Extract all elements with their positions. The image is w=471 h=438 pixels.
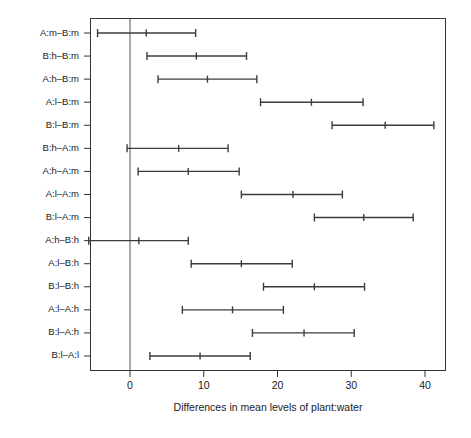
y-tick-label-bl-bm: B:l–B:m	[46, 119, 79, 130]
y-tick-label-bl-al: B:l–A:l	[52, 349, 79, 360]
y-tick-label-al-bh: A:l–B:h	[48, 257, 79, 268]
tukey-hsd-chart: A:m–B:mB:h–B:mA:h–B:mA:l–B:mB:l–B:mB:h–A…	[0, 0, 471, 438]
y-tick-label-ah-bh: A:h–B:h	[45, 234, 79, 245]
plot-canvas: A:m–B:mB:h–B:mA:h–B:mA:l–B:mB:l–B:mB:h–A…	[0, 0, 471, 438]
y-tick-label-bl-bh: B:l–B:h	[48, 280, 79, 291]
x-tick-label-30: 30	[345, 379, 357, 391]
y-tick-label-bh-am: B:h–A:m	[43, 142, 80, 153]
y-tick-label-bl-ah: B:l–A:h	[48, 326, 79, 337]
y-tick-label-al-am: A:l–A:m	[46, 188, 79, 199]
x-tick-label-40: 40	[419, 379, 431, 391]
x-tick-label-10: 10	[198, 379, 210, 391]
y-tick-label-ah-bm: A:h–B:m	[43, 73, 80, 84]
y-tick-label-al-bm: A:l–B:m	[46, 96, 79, 107]
y-tick-label-am-bm: A:m–B:m	[40, 27, 79, 38]
x-tick-label-20: 20	[272, 379, 284, 391]
y-tick-label-al-ah: A:l–A:h	[48, 303, 79, 314]
y-tick-label-ah-am: A:h–A:m	[43, 165, 80, 176]
x-tick-label-0: 0	[127, 379, 133, 391]
y-tick-label-bh-bm: B:h–B:m	[43, 50, 80, 61]
y-tick-label-bl-am: B:l–A:m	[46, 211, 79, 222]
x-axis-title: Differences in mean levels of plant:wate…	[174, 401, 363, 413]
